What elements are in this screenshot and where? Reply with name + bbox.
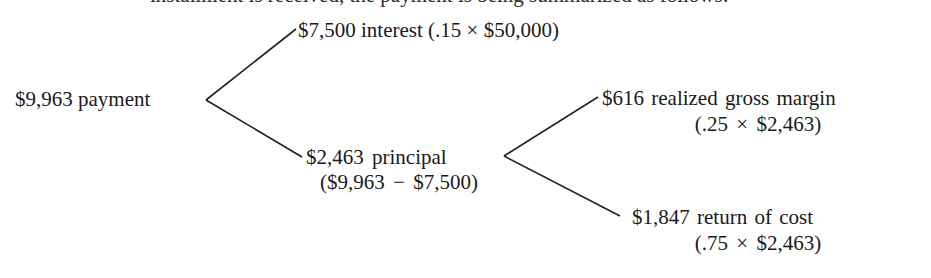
branch-principal-to-margin bbox=[504, 97, 598, 156]
gross-margin-calc: (.25 × $2,463) bbox=[660, 112, 856, 136]
payment-root-node: $9,963 payment bbox=[15, 87, 150, 111]
principal-calc: ($9,963 − $7,500) bbox=[290, 170, 508, 194]
return-of-cost-calc: (.75 × $2,463) bbox=[660, 231, 856, 255]
branch-payment-to-principal bbox=[206, 100, 302, 157]
branch-principal-to-cost bbox=[504, 156, 620, 216]
principal-node: $2,463 principal bbox=[306, 145, 447, 169]
return-of-cost-node: $1,847 return of cost bbox=[632, 205, 813, 229]
interest-node: $7,500 interest (.15 × $50,000) bbox=[298, 18, 559, 42]
gross-margin-node: $616 realized gross margin bbox=[602, 86, 836, 110]
branch-payment-to-interest bbox=[206, 29, 296, 100]
